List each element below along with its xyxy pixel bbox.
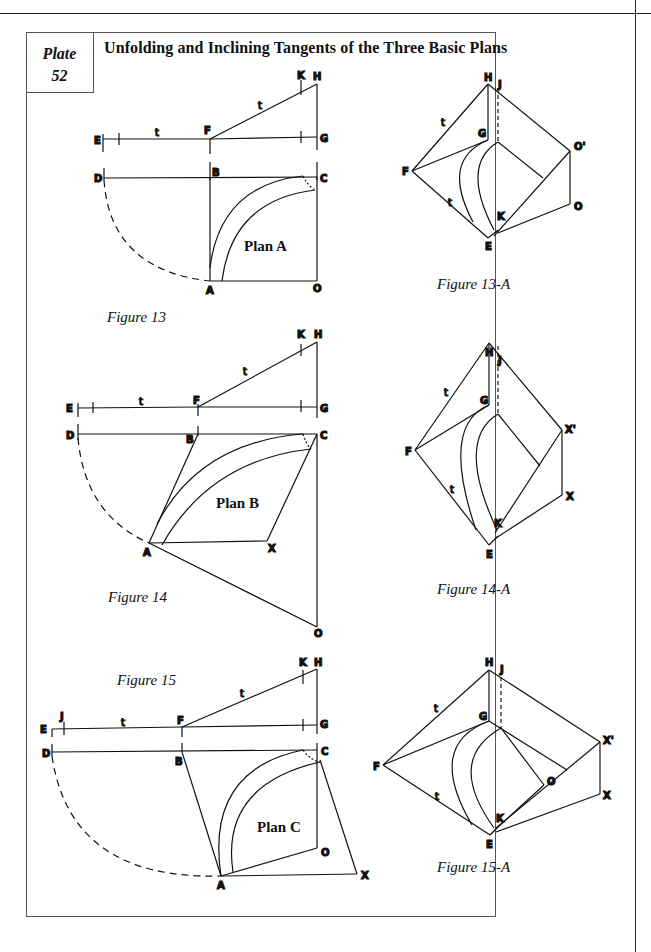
fig13a-pt-J: J — [497, 79, 502, 90]
fig13a-pt-K: K — [497, 211, 506, 222]
plan-a-label: Plan A — [244, 238, 287, 255]
fig15a-pt-F: F — [373, 761, 380, 772]
fig15-pt-B: B — [175, 756, 183, 767]
fig13-pt-O: O — [313, 283, 322, 294]
fig15-pt-G: G — [320, 719, 328, 730]
fig14a-t-label: t — [444, 387, 448, 398]
fig13-pt-D: D — [94, 173, 102, 184]
plan-c-label: Plan C — [257, 819, 301, 836]
fig15a-pt-J: J — [499, 664, 504, 675]
fig14a-pt-X: X — [566, 491, 574, 502]
fig15a-pt-K: K — [496, 813, 505, 824]
fig14a-pt-J: J — [497, 355, 502, 366]
fig13-pt-F: F — [204, 125, 211, 136]
fig13-pt-K: K — [297, 70, 306, 81]
fig13a-pt-G: G — [478, 128, 486, 139]
fig15-t-label-2: t — [240, 688, 244, 699]
fig13-pt-G: G — [320, 133, 328, 144]
fig13-pt-E: E — [94, 135, 101, 146]
figure-15-caption: Figure 15 — [117, 672, 176, 689]
fig13a-t-label: t — [441, 117, 445, 128]
fig13a-pt-O-prime: O' — [574, 141, 586, 152]
fig13-pt-C: C — [320, 173, 327, 184]
fig15-pt-A: A — [217, 880, 225, 891]
fig13a-pt-H: H — [484, 72, 492, 83]
figure-15a-caption: Figure 15-A — [437, 859, 510, 876]
figure-13-caption: Figure 13 — [107, 309, 166, 326]
fig13-t-label: t — [155, 127, 159, 138]
fig14-t-label-2: t — [243, 366, 247, 377]
fig15a-pt-X: X — [603, 790, 611, 801]
fig14-t-label: t — [139, 396, 143, 407]
fig14-pt-D: D — [66, 430, 74, 441]
fig15a-pt-E: E — [486, 839, 493, 850]
fig13a-pt-E: E — [485, 241, 492, 252]
fig13a-pt-F: F — [402, 166, 409, 177]
fig15-pt-D: D — [42, 748, 50, 759]
fig13a-t-label-2: t — [448, 197, 452, 208]
fig15-pt-F: F — [177, 715, 184, 726]
fig14-pt-C: C — [320, 430, 327, 441]
fig14-pt-O: O — [314, 628, 323, 639]
fig13-t-label-2: t — [258, 100, 262, 111]
fig15-pt-K: K — [299, 657, 308, 668]
fig14-pt-K: K — [297, 329, 306, 340]
fig15-pt-O: O — [321, 847, 330, 858]
fig15a-pt-G: G — [479, 711, 487, 722]
figure-14a-caption: Figure 14-A — [437, 581, 510, 598]
fig14a-pt-X-prime: X' — [565, 424, 576, 435]
fig13-pt-B: B — [212, 167, 220, 178]
fig14-pt-B: B — [186, 434, 194, 445]
fig14a-pt-G: G — [480, 395, 488, 406]
fig14-pt-G: G — [320, 403, 328, 414]
figure-13a-drawing — [412, 84, 570, 238]
plan-b-label: Plan B — [216, 495, 259, 512]
fig15-pt-H: H — [314, 657, 322, 668]
drawings: E F G H K D B C A O t t H J G F E K O' O… — [0, 0, 651, 952]
figure-13a-caption: Figure 13-A — [437, 276, 510, 293]
fig14-pt-F: F — [193, 395, 200, 406]
fig14a-pt-K: K — [494, 518, 503, 529]
fig15a-pt-X-prime: X' — [603, 735, 614, 746]
fig15-pt-J: J — [59, 711, 64, 722]
fig15-pt-E: E — [40, 724, 47, 735]
fig15a-t-label: t — [434, 703, 438, 714]
fig14a-pt-H: H — [485, 347, 493, 358]
fig13-pt-H: H — [313, 71, 321, 82]
fig15-t-label: t — [121, 717, 125, 728]
fig14-pt-A: A — [143, 547, 151, 558]
fig15-pt-C: C — [321, 746, 328, 757]
figure-15a-drawing — [383, 670, 600, 835]
fig15-pt-X: X — [361, 870, 369, 881]
fig14-pt-X: X — [268, 543, 276, 554]
figure-14-drawing — [78, 342, 317, 627]
fig13-pt-A: A — [206, 285, 214, 296]
figure-14a-drawing — [415, 343, 562, 545]
fig14-pt-H: H — [314, 329, 322, 340]
figure-14-caption: Figure 14 — [108, 589, 167, 606]
fig14a-t-label-2: t — [450, 484, 454, 495]
fig15a-t-label-2: t — [435, 791, 439, 802]
fig15a-pt-H: H — [485, 657, 493, 668]
figure-15-drawing — [52, 669, 357, 876]
fig13a-pt-O: O — [574, 201, 583, 212]
fig14-pt-E: E — [66, 403, 73, 414]
fig15a-pt-O: O — [547, 776, 556, 787]
fig14a-pt-E: E — [486, 549, 493, 560]
fig14a-pt-F: F — [405, 446, 412, 457]
